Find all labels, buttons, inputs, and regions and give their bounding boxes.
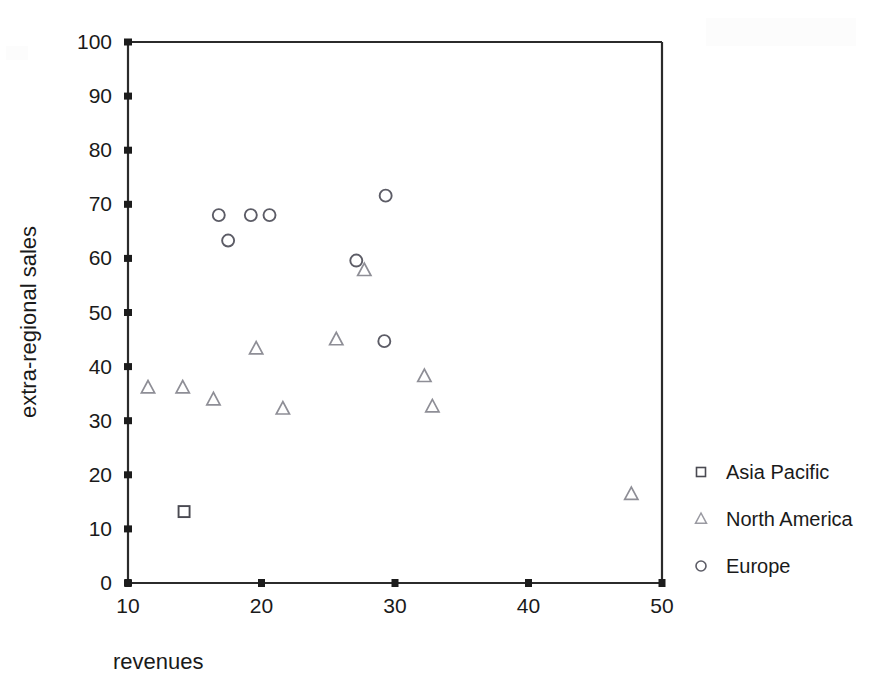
x-tick-mark xyxy=(258,579,265,587)
series-asia-pacific xyxy=(179,506,190,517)
y-tick-label: 90 xyxy=(89,84,112,107)
data-point-triangle xyxy=(625,487,638,499)
data-point-layer xyxy=(141,190,638,517)
y-tick-label: 20 xyxy=(89,463,112,486)
x-axis-title: revenues xyxy=(113,649,204,674)
y-tick-mark xyxy=(124,147,132,154)
data-point-circle xyxy=(213,209,225,221)
y-tick-mark xyxy=(124,363,132,370)
data-point-triangle xyxy=(276,402,289,414)
y-tick-label: 40 xyxy=(89,355,112,378)
y-tick-mark xyxy=(124,255,132,262)
y-tick-label: 100 xyxy=(77,30,112,53)
data-point-circle xyxy=(380,190,392,202)
data-point-triangle xyxy=(207,392,220,404)
legend-item-label: North America xyxy=(726,508,854,530)
x-tick-mark xyxy=(659,579,666,587)
legend-item-europe[interactable]: Europe xyxy=(696,555,791,577)
y-tick-label: 10 xyxy=(89,517,112,540)
data-point-square xyxy=(179,506,190,517)
x-axis-tick-labels: 1020304050 xyxy=(116,594,673,617)
data-point-circle xyxy=(222,235,234,247)
x-tick-label: 50 xyxy=(650,594,673,617)
data-point-triangle xyxy=(418,369,431,381)
y-tick-label: 50 xyxy=(89,301,112,324)
legend-item-asia-pacific[interactable]: Asia Pacific xyxy=(697,461,830,483)
y-tick-label: 0 xyxy=(100,571,112,594)
x-tick-mark xyxy=(392,579,399,587)
y-tick-mark xyxy=(124,417,132,424)
y-tick-mark xyxy=(124,525,132,532)
y-tick-label: 30 xyxy=(89,409,112,432)
x-tick-label: 40 xyxy=(517,594,540,617)
triangle-marker-icon xyxy=(695,513,706,523)
legend-item-north-america[interactable]: North America xyxy=(695,508,853,530)
x-tick-label: 30 xyxy=(383,594,406,617)
y-axis-tick-labels: 0102030405060708090100 xyxy=(77,30,112,594)
x-tick-mark xyxy=(525,579,532,587)
circle-marker-icon xyxy=(696,561,706,571)
y-tick-label: 80 xyxy=(89,138,112,161)
data-point-triangle xyxy=(141,381,154,393)
x-tick-mark xyxy=(125,579,132,587)
y-tick-label: 60 xyxy=(89,246,112,269)
data-point-triangle xyxy=(176,381,189,393)
data-point-circle xyxy=(378,335,390,347)
y-tick-mark xyxy=(124,471,132,478)
plot-frame xyxy=(128,42,662,583)
y-axis-title: extra-regional sales xyxy=(16,226,41,418)
data-point-triangle xyxy=(426,399,439,411)
chart-canvas: 0102030405060708090100 1020304050 revenu… xyxy=(0,0,876,700)
series-north-america xyxy=(141,263,638,499)
x-tick-label: 20 xyxy=(250,594,273,617)
legend-item-label: Europe xyxy=(726,555,791,577)
data-point-circle xyxy=(245,209,257,221)
chart-legend: Asia PacificNorth AmericaEurope xyxy=(695,461,853,577)
y-tick-label: 70 xyxy=(89,192,112,215)
y-tick-mark xyxy=(124,309,132,316)
data-point-triangle xyxy=(330,332,343,344)
data-point-circle xyxy=(350,255,362,267)
x-tick-label: 10 xyxy=(116,594,139,617)
y-tick-mark xyxy=(124,39,132,46)
y-tick-mark xyxy=(124,201,132,208)
data-point-circle xyxy=(264,209,276,221)
data-point-triangle xyxy=(250,342,263,354)
series-europe xyxy=(213,190,392,348)
scatter-chart: 0102030405060708090100 1020304050 revenu… xyxy=(0,0,876,700)
y-tick-mark xyxy=(124,93,132,100)
square-marker-icon xyxy=(697,468,706,477)
legend-item-label: Asia Pacific xyxy=(726,461,829,483)
